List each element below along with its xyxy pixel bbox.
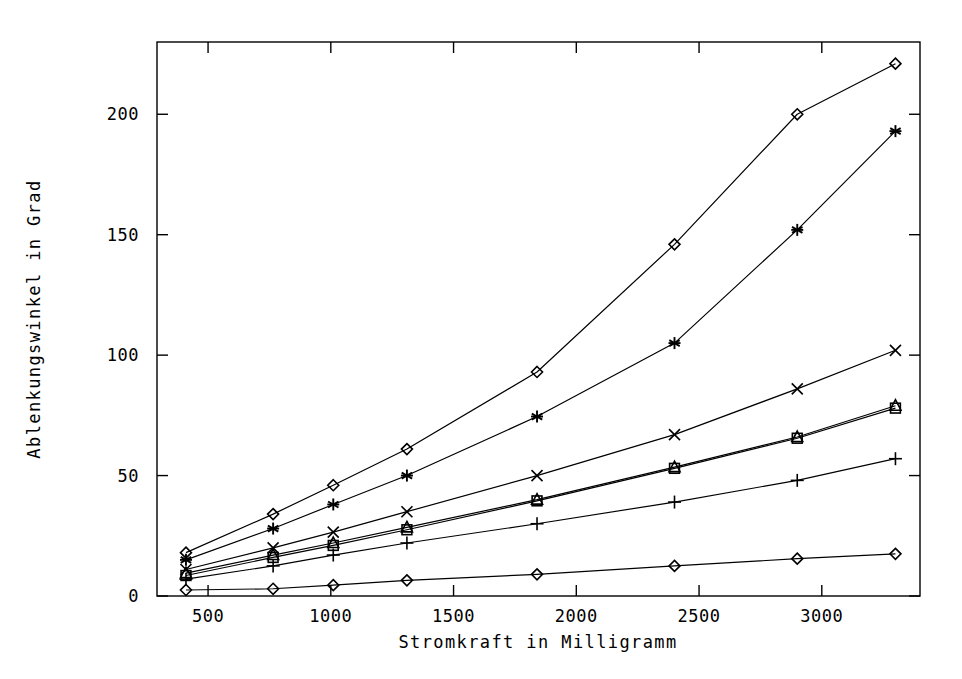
series-polyline [186,408,895,575]
data-series-series-4 [181,403,900,580]
series-polyline [186,406,895,573]
data-point-marker-x-cross [669,429,680,440]
y-tick-label: 150 [107,225,139,245]
plot-frame [157,42,920,596]
data-series-group [179,58,901,595]
data-series-series-1 [180,58,900,558]
data-point-marker-plus [791,474,804,487]
data-series-series-5 [180,400,900,578]
chart-figure: 50010001500200025003000 050100150200 Str… [0,0,962,679]
data-point-marker-plus [889,452,902,465]
y-tick-label: 0 [128,586,139,606]
data-point-marker-x-cross [792,383,803,394]
data-point-marker-star [180,554,192,566]
data-point-marker-plus [531,517,544,530]
x-axis-ticks [208,42,822,596]
x-axis-title: Stromkraft in Milligramm [398,632,677,652]
data-point-marker-x-cross [532,470,543,481]
x-tick-label: 1000 [309,606,352,626]
x-tick-label: 1500 [432,606,475,626]
data-point-marker-x-cross [890,345,901,356]
y-axis-tick-labels: 050100150200 [107,104,139,606]
y-axis-title: Ablenkungswinkel in Grad [24,179,44,458]
data-point-marker-star [401,470,413,482]
y-tick-label: 100 [107,345,139,365]
data-series-series-7 [180,548,900,595]
data-point-marker-star [327,498,339,510]
x-tick-label: 3000 [800,606,843,626]
data-point-marker-star [267,523,279,535]
data-series-series-3 [180,345,900,575]
data-point-marker-star [531,411,543,423]
series-polyline [186,459,895,579]
data-point-marker-x-cross [401,506,412,517]
x-tick-label: 2500 [678,606,721,626]
plot-area: 50010001500200025003000 050100150200 Str… [0,0,962,679]
series-polyline [186,350,895,569]
x-tick-label: 500 [192,606,224,626]
data-point-marker-plus [400,537,413,550]
x-axis-tick-labels: 50010001500200025003000 [192,606,843,626]
x-tick-label: 2000 [555,606,598,626]
y-tick-label: 200 [107,104,139,124]
data-point-marker-plus [668,496,681,509]
y-tick-label: 50 [118,466,139,486]
